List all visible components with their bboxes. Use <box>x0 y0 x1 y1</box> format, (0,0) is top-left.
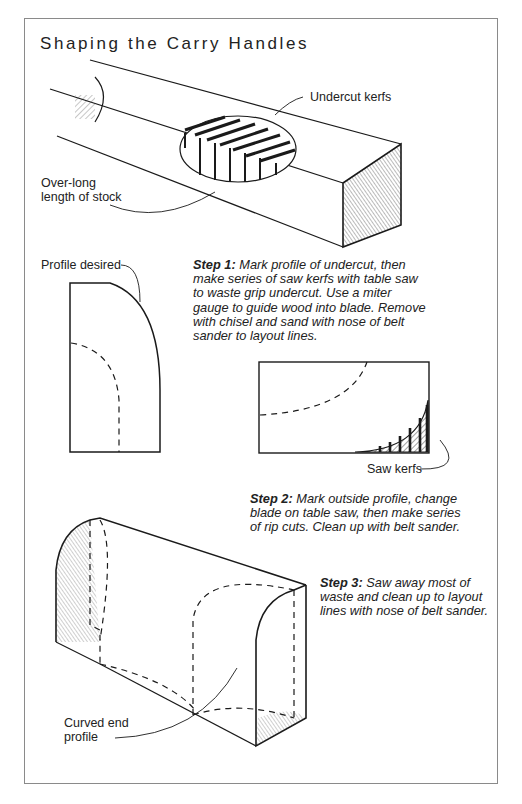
label-profile-desired: Profile desired <box>41 258 121 272</box>
label-saw-kerfs: Saw kerfs <box>367 462 422 476</box>
step-1-text: Step 1: Mark profile of undercut, then m… <box>193 258 426 343</box>
step-1-line: with chisel and sand with nose of belt <box>193 314 404 329</box>
step-3-text: Step 3: Saw away most of waste and clean… <box>320 576 488 619</box>
finished-handle-drawing <box>56 518 306 746</box>
label-curved-end-line1: Curved end <box>64 716 129 730</box>
label-undercut-kerfs: Undercut kerfs <box>310 90 391 104</box>
step-3-line: waste and clean up to layout <box>320 589 482 604</box>
step-1-line: make series of saw kerfs with table saw <box>193 271 418 286</box>
label-curved-end-line2: profile <box>64 730 98 744</box>
step-1-line: to waste grip undercut. Use a miter <box>193 285 391 300</box>
step-3-line: lines with nose of belt sander. <box>320 603 488 618</box>
step-3-label: Step 3: <box>320 575 363 590</box>
step-1-line: gauge to guide wood into blade. Remove <box>193 300 426 315</box>
step-2-line: blade on table saw, then make series <box>250 505 461 520</box>
label-overlong-line2: length of stock <box>41 190 122 204</box>
step-2-label: Step 2: <box>250 491 293 506</box>
profile-desired-drawing <box>70 265 160 452</box>
stock-block-drawing <box>50 60 401 247</box>
step-2-line: Mark outside profile, change <box>296 491 457 506</box>
illustration <box>0 0 522 804</box>
step-1-line: Mark profile of undercut, then <box>239 257 405 272</box>
step-2-line: of rip cuts. Clean up with belt sander. <box>250 519 460 534</box>
step-2-text: Step 2: Mark outside profile, change bla… <box>250 492 461 535</box>
step-1-label: Step 1: <box>193 257 236 272</box>
step-1-line: sander to layout lines. <box>193 328 318 343</box>
saw-kerfs-drawing <box>259 362 449 469</box>
step-3-line: Saw away most of <box>366 575 470 590</box>
label-overlong-line1: Over-long <box>41 176 96 190</box>
